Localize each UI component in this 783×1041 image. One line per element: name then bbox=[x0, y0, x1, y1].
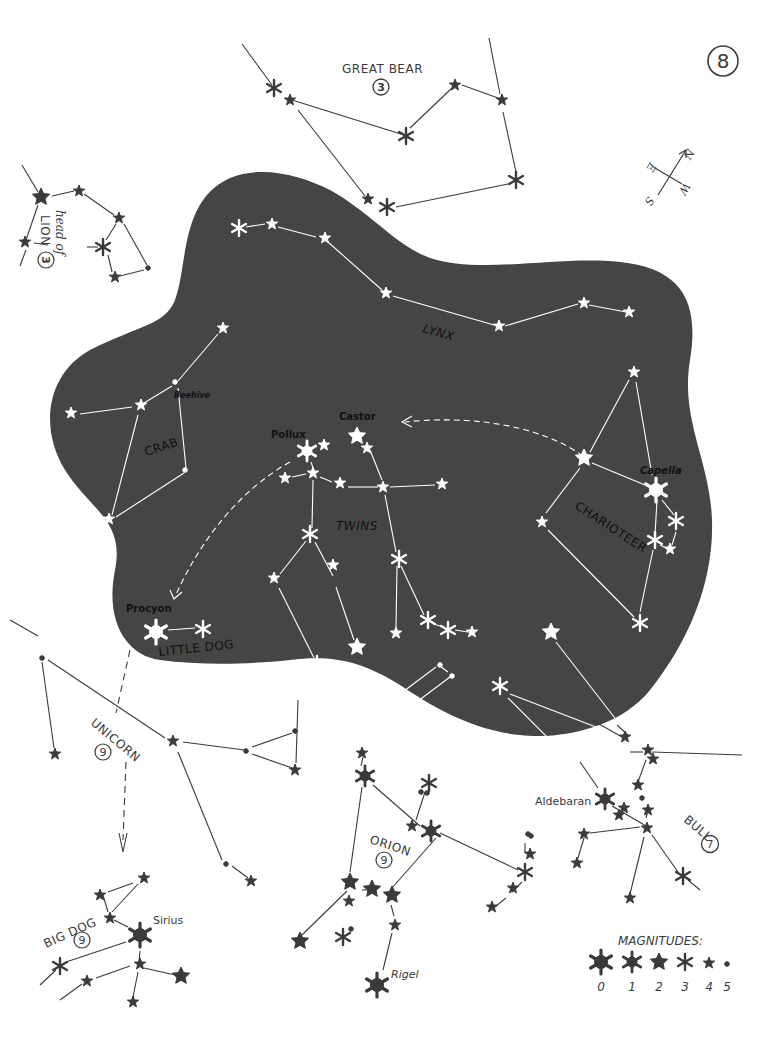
svg-text:9: 9 bbox=[381, 854, 388, 867]
pollux-label: Pollux bbox=[271, 429, 306, 440]
big-dog-chart-ref: 9 bbox=[74, 932, 90, 948]
magnitude-3-icon bbox=[678, 954, 692, 970]
compass-south: S bbox=[641, 195, 656, 208]
capella-label: Capella bbox=[640, 465, 682, 476]
compass-ew-axis bbox=[655, 168, 682, 184]
unicorn-label: UNICORN bbox=[88, 716, 143, 765]
legend-mag-3: 3 bbox=[681, 980, 689, 994]
sirius-label: Sirius bbox=[153, 914, 184, 927]
legend-mag-0: 0 bbox=[597, 980, 605, 994]
lion-label: LION bbox=[38, 215, 52, 246]
svg-text:7: 7 bbox=[707, 838, 714, 851]
great-bear-chart-ref: 3 bbox=[373, 79, 389, 95]
beehive-label: Beehive bbox=[174, 391, 211, 400]
legend-mag-2: 2 bbox=[655, 980, 663, 994]
magnitude-1-icon bbox=[623, 952, 640, 972]
lion-label-group: head of LION 3 bbox=[38, 210, 67, 268]
star-chart: LYNX CRAB TWINS CHARIOTEER LITTLE DOG Ca… bbox=[0, 0, 783, 1041]
great-bear-label: GREAT BEAR bbox=[342, 62, 423, 76]
aldebaran-label: Aldebaran bbox=[535, 795, 591, 808]
magnitude-4-icon bbox=[703, 957, 714, 968]
procyon-label: Procyon bbox=[126, 603, 172, 614]
magnitude-legend: MAGNITUDES: 0 1 2 3 4 5 bbox=[591, 934, 731, 994]
castor-label: Castor bbox=[339, 411, 376, 422]
orion-chart-ref: 9 bbox=[376, 852, 392, 868]
big-dog-label: BIG DOG bbox=[42, 915, 99, 951]
compass-north: N bbox=[680, 146, 697, 162]
lion-chart-ref: 3 bbox=[39, 256, 52, 264]
legend-mag-4: 4 bbox=[705, 980, 713, 994]
svg-text:9: 9 bbox=[100, 746, 107, 759]
lion-prefix: head of bbox=[53, 210, 67, 258]
magnitude-2-icon bbox=[650, 953, 667, 969]
svg-text:3: 3 bbox=[377, 81, 385, 94]
bull-chart-ref: 7 bbox=[702, 836, 719, 853]
legend-title: MAGNITUDES: bbox=[618, 934, 703, 948]
compass-east: E bbox=[643, 160, 659, 174]
svg-text:9: 9 bbox=[79, 934, 86, 947]
unicorn-chart-ref: 9 bbox=[95, 744, 111, 760]
legend-mag-5: 5 bbox=[723, 980, 731, 994]
twins-label: TWINS bbox=[336, 519, 378, 533]
magnitude-0-icon bbox=[591, 950, 612, 974]
compass-west: W bbox=[675, 181, 693, 199]
magnitude-5-icon bbox=[725, 962, 730, 967]
chart-number-badge: 8 bbox=[708, 46, 738, 76]
rigel-label: Rigel bbox=[391, 968, 419, 981]
legend-mag-1: 1 bbox=[628, 980, 636, 994]
chart-number: 8 bbox=[717, 49, 730, 73]
